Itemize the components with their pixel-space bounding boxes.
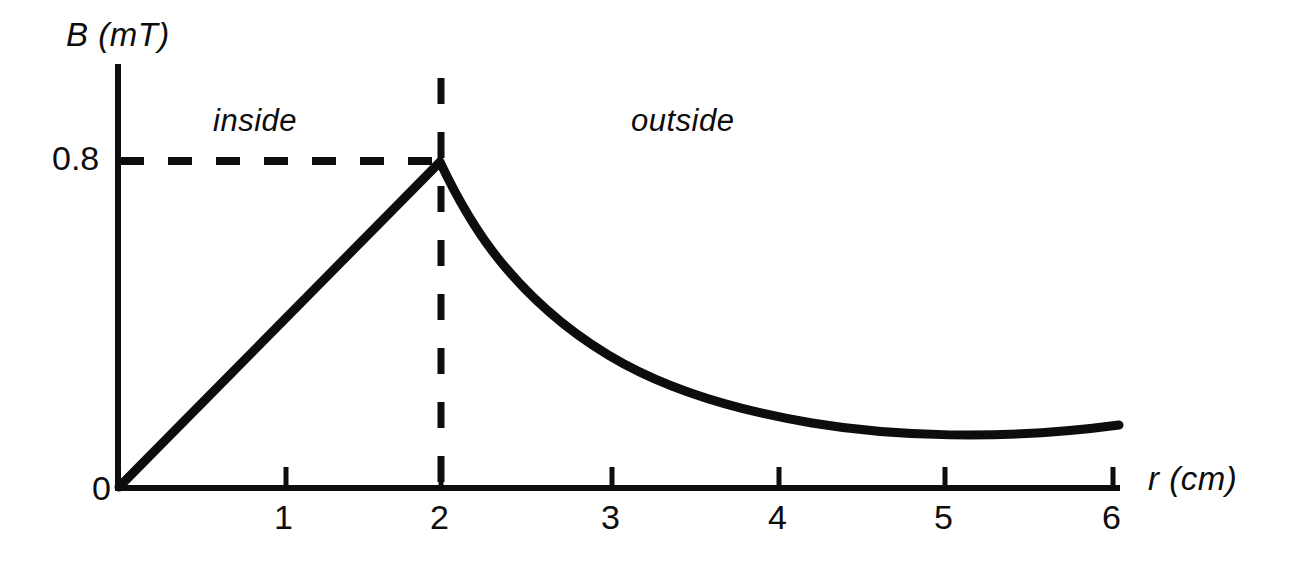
chart-plot-area — [0, 0, 1293, 561]
x-axis-tick-label-5: 5 — [934, 500, 953, 534]
region-label-outside: outside — [631, 105, 734, 136]
curve-outside-decay-main — [440, 162, 1119, 435]
curve-inside-linear — [119, 162, 440, 487]
region-label-inside: inside — [213, 105, 297, 136]
x-axis-tick-label-3: 3 — [601, 500, 620, 534]
y-axis-title: B (mT) — [66, 18, 170, 51]
magnetic-field-chart: B (mT) r (cm) inside outside 0.8 0 1 2 3… — [0, 0, 1293, 561]
x-axis-tick-label-1: 1 — [274, 500, 293, 534]
y-axis-tick-label-0-8: 0.8 — [52, 141, 99, 175]
x-axis-tick-label-4: 4 — [768, 500, 787, 534]
x-axis-title: r (cm) — [1148, 462, 1237, 495]
y-axis-tick-label-0: 0 — [92, 471, 111, 505]
x-axis-tick-label-6: 6 — [1102, 500, 1121, 534]
x-axis-tick-label-2: 2 — [430, 500, 449, 534]
